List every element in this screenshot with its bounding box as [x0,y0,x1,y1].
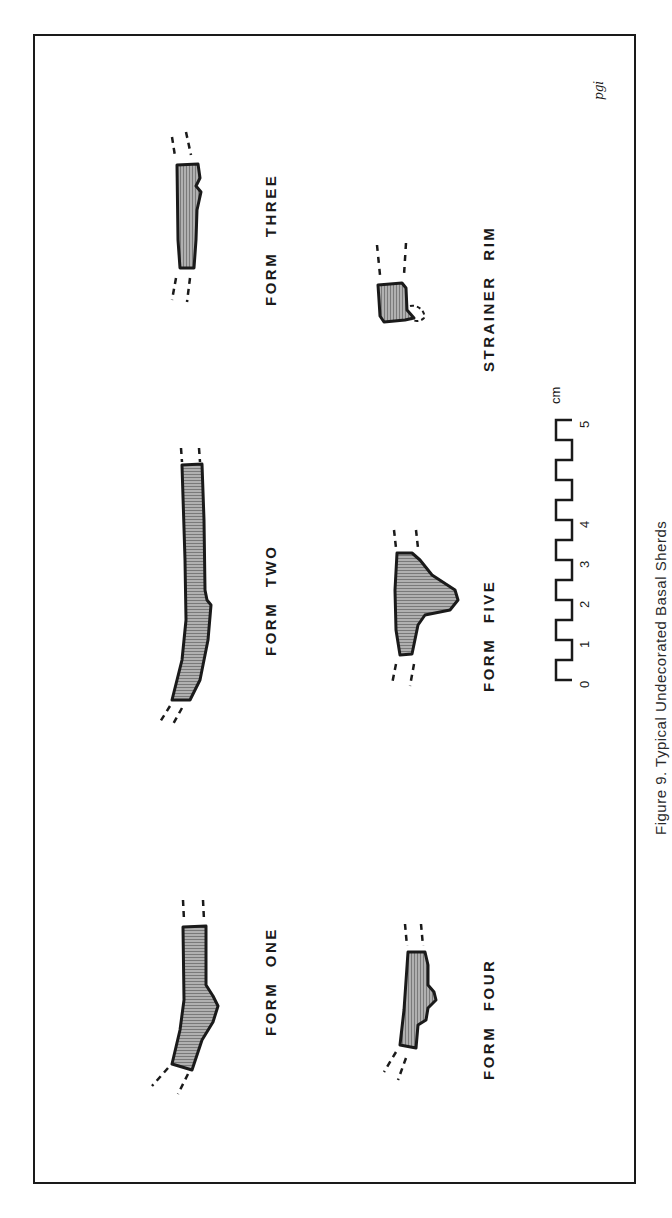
figure-caption: Figure 9. Typical Undecorated Basal Sher… [652,521,669,835]
scale-tick-5: 5 [577,421,592,428]
label-form-one: FORM ONE [262,927,279,1036]
scale-tick-0: 0 [577,681,592,688]
form-four-profile [384,924,436,1080]
label-form-three: FORM THREE [262,174,279,306]
form-two-profile [160,448,211,726]
scale-tick-3: 3 [577,561,592,568]
form-one-profile [152,900,218,1094]
strainer-rim-profile [377,243,424,322]
scale-unit: cm [548,387,563,404]
label-form-two: FORM TWO [262,545,279,656]
label-strainer-rim: STRAINER RIM [480,226,497,372]
scale-tick-1: 1 [577,641,592,648]
scale-bar [556,420,572,680]
label-form-five: FORM FIVE [480,580,497,692]
form-three-profile [172,132,201,302]
scale-tick-4: 4 [577,521,592,528]
form-five-profile [392,530,458,686]
sherd-profiles-drawing [0,0,672,1218]
scale-tick-2: 2 [577,601,592,608]
draftsman-initials: pgi [592,81,606,100]
label-form-four: FORM FOUR [480,959,497,1080]
